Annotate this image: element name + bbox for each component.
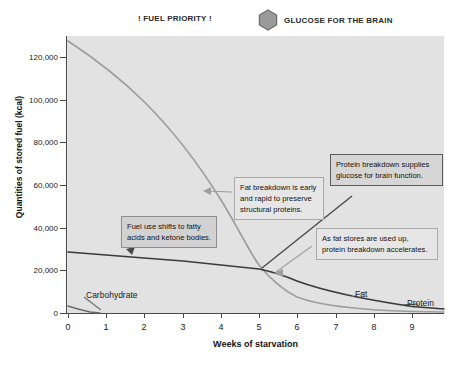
callout-fuel-use-shift-line1: Fuel use shifts to fatty [127, 221, 211, 232]
leader-arrow-fuel-use-shift [126, 247, 135, 255]
chart-root: ! FUEL PRIORITY ! GLUCOSE FOR THE BRAIN … [0, 0, 467, 365]
callout-fat-breakdown-line1: Fat breakdown is early [240, 182, 318, 193]
callout-protein-breakdown-line2: glucose for brain function. [336, 170, 437, 181]
callout-fat-stores: As fat stores are used up, protein break… [316, 228, 438, 260]
callout-protein-breakdown: Protein breakdown supplies glucose for b… [330, 154, 443, 186]
callout-fat-stores-line1: As fat stores are used up, [322, 233, 432, 244]
callout-fat-stores-line2: protein breakdown accelerates. [322, 244, 432, 255]
leader-line-fat-stores [276, 246, 312, 272]
series-label-carbohydrate: Carbohydrate [86, 290, 138, 300]
callout-fat-breakdown: Fat breakdown is early and rapid to pres… [234, 177, 324, 220]
leader-arrow-fat-breakdown [203, 187, 211, 195]
callout-protein-breakdown-line1: Protein breakdown supplies [336, 159, 437, 170]
callout-fat-breakdown-line3: structural proteins. [240, 204, 318, 215]
series-label-fat: Fat [355, 289, 367, 299]
carbohydrate-series-line [68, 306, 100, 313]
callout-fuel-use-shift: Fuel use shifts to fatty acids and keton… [121, 216, 217, 248]
callout-fuel-use-shift-line2: acids and ketone bodies. [127, 232, 211, 243]
callout-fat-breakdown-line2: and rapid to preserve [240, 193, 318, 204]
series-label-protein: Protein [407, 298, 434, 308]
